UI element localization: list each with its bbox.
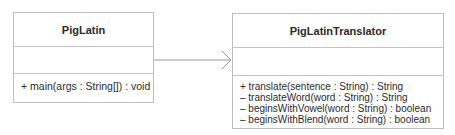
attributes-compartment — [233, 48, 443, 76]
operation: – translateWord(word : String) : String — [240, 92, 443, 103]
class-piglatin[interactable]: PigLatin + main(args : String[]) : void — [13, 12, 154, 103]
operation: – beginsWithVowel(word : String) : boole… — [240, 103, 443, 114]
operation: – beginsWithBlend(word : String) : boole… — [240, 114, 443, 125]
operations-compartment: + main(args : String[]) : void — [14, 74, 153, 92]
operations-compartment: + translate(sentence : String) : String … — [233, 76, 443, 125]
operation: + main(args : String[]) : void — [21, 81, 153, 92]
attributes-compartment — [14, 47, 153, 74]
operation: + translate(sentence : String) : String — [240, 81, 443, 92]
class-name: PigLatin — [14, 13, 153, 47]
class-piglatintranslator[interactable]: PigLatinTranslator + translate(sentence … — [232, 13, 444, 129]
class-name: PigLatinTranslator — [233, 14, 443, 48]
